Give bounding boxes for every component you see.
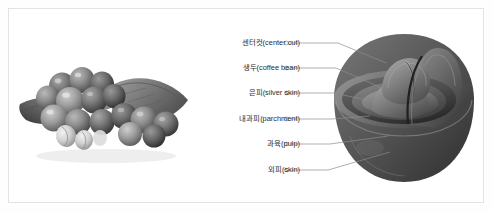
figure-canvas: 센터컷(center cut) 생두(coffee bean) 은피(silve…: [0, 0, 494, 213]
leader-line-coffee-bean: [290, 68, 382, 88]
leader-line-parchment: [290, 116, 370, 119]
label-list: 센터컷(center cut) 생두(coffee bean) 은피(silve…: [150, 16, 300, 198]
label-parchment: 내과피(parchment): [239, 114, 300, 123]
label-center-cut: 센터컷(center cut): [242, 38, 300, 47]
label-skin: 외피(skin): [268, 165, 300, 174]
leader-line-silver-skin: [290, 93, 376, 102]
leader-line-center-cut: [290, 43, 386, 63]
label-pulp: 과육(pulp): [267, 139, 300, 148]
leader-line-pulp: [290, 136, 388, 144]
leader-line-skin: [290, 152, 390, 170]
label-coffee-bean: 생두(coffee bean): [243, 63, 300, 72]
label-silver-skin: 은피(silver skin): [249, 88, 300, 97]
